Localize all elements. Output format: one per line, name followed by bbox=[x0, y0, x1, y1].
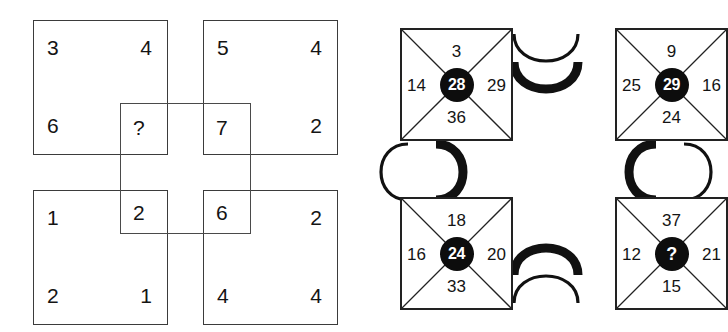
link-left bbox=[381, 144, 463, 200]
center-square-value-br: 6 bbox=[216, 202, 228, 223]
node-bottom-left-value-right: 20 bbox=[487, 245, 506, 262]
square-top-left-value-bl: 6 bbox=[47, 115, 59, 136]
node-bottom-right-value-right: 21 bbox=[702, 245, 721, 262]
square-bottom-left-value-tl: 1 bbox=[47, 207, 59, 228]
center-square-value-tr: 7 bbox=[216, 117, 228, 138]
node-top-left-value-right: 29 bbox=[487, 76, 506, 93]
node-bottom-right-value-top: 37 bbox=[662, 212, 681, 229]
node-top-right-value-left: 25 bbox=[622, 76, 641, 93]
square-bottom-right-value-br: 4 bbox=[310, 285, 322, 306]
square-top-right-value-tl: 5 bbox=[217, 37, 229, 58]
puzzle-canvas: 3 4 6 5 4 2 1 2 1 2 4 4 ? 7 2 6 bbox=[0, 0, 728, 332]
node-bottom-right-value-bottom: 15 bbox=[662, 278, 681, 295]
node-bottom-right-disc: ? bbox=[655, 237, 689, 271]
node-bottom-left-disc: 24 bbox=[440, 237, 474, 271]
center-square-value-bl: 2 bbox=[133, 202, 145, 223]
overlapping-squares-puzzle: 3 4 6 5 4 2 1 2 1 2 4 4 ? 7 2 6 bbox=[0, 0, 364, 332]
node-top-right-value-right: 16 bbox=[702, 76, 721, 93]
square-bottom-left-value-bl: 2 bbox=[47, 285, 59, 306]
link-top bbox=[514, 34, 578, 89]
node-top-left: 3 14 29 36 28 bbox=[400, 28, 513, 141]
square-bottom-right-value-tr: 2 bbox=[310, 207, 322, 228]
node-bottom-left-value-bottom: 33 bbox=[447, 278, 466, 295]
node-bottom-right-center-value: ? bbox=[666, 245, 677, 263]
node-top-right-value-top: 9 bbox=[667, 43, 676, 60]
node-bottom-left: 18 16 20 33 24 bbox=[400, 197, 513, 310]
node-bottom-right: 37 12 21 15 ? bbox=[615, 197, 728, 310]
square-top-left-value-tl: 3 bbox=[47, 37, 59, 58]
node-bottom-left-value-left: 16 bbox=[407, 245, 426, 262]
link-right bbox=[629, 144, 711, 200]
node-top-left-value-left: 14 bbox=[407, 76, 426, 93]
node-top-left-value-top: 3 bbox=[452, 43, 461, 60]
node-top-left-value-bottom: 36 bbox=[447, 109, 466, 126]
node-bottom-right-value-left: 12 bbox=[622, 245, 641, 262]
node-top-left-center-value: 28 bbox=[448, 77, 465, 93]
square-bottom-left-value-br: 1 bbox=[140, 285, 152, 306]
link-bottom bbox=[514, 248, 578, 303]
node-top-right: 9 25 16 24 29 bbox=[615, 28, 728, 141]
square-top-right-value-tr: 4 bbox=[310, 37, 322, 58]
node-top-left-disc: 28 bbox=[440, 68, 474, 102]
square-top-right-value-br: 2 bbox=[310, 115, 322, 136]
node-top-right-disc: 29 bbox=[655, 68, 689, 102]
square-top-left-value-tr: 4 bbox=[140, 37, 152, 58]
node-bottom-left-value-top: 18 bbox=[447, 212, 466, 229]
node-bottom-left-center-value: 24 bbox=[448, 246, 465, 262]
node-top-right-value-bottom: 24 bbox=[662, 109, 681, 126]
center-square-value-tl: ? bbox=[133, 117, 145, 138]
node-top-right-center-value: 29 bbox=[663, 77, 680, 93]
linked-x-nodes-puzzle: 3 14 29 36 28 9 25 16 24 29 bbox=[364, 0, 728, 332]
square-bottom-right-value-bl: 4 bbox=[217, 285, 229, 306]
